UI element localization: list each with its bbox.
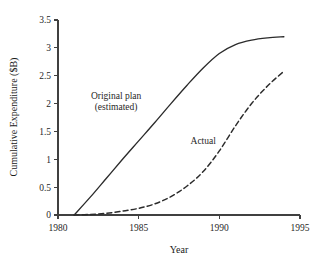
x-tick-group: 1980198519901995 <box>49 215 310 233</box>
x-axis-title: Year <box>170 244 189 255</box>
y-tick-label: 3 <box>46 43 51 53</box>
y-tick-label: 0.5 <box>39 183 51 193</box>
y-tick-label: 2 <box>46 99 51 109</box>
y-tick-label: 3.5 <box>39 15 51 25</box>
x-tick-label: 1985 <box>129 223 148 233</box>
annotation-original-plan-line2: (estimated) <box>95 102 138 113</box>
x-tick-label: 1995 <box>291 223 310 233</box>
y-tick-label: 1.5 <box>39 127 51 137</box>
y-tick-label: 0 <box>46 210 51 220</box>
series-group <box>74 37 284 215</box>
annotation-original-plan: Original plan <box>91 91 142 101</box>
x-tick-label: 1990 <box>210 223 229 233</box>
series-line-original-plan <box>74 37 284 215</box>
annotation-group: Original plan(estimated)Actual <box>91 91 216 146</box>
y-axis-title: Cumulative Expenditure ($B) <box>8 58 20 177</box>
x-tick-label: 1980 <box>49 223 68 233</box>
y-tick-label: 1 <box>46 155 51 165</box>
line-chart: 00.511.522.533.5 1980198519901995 Origin… <box>0 0 320 267</box>
chart-figure: 00.511.522.533.5 1980198519901995 Origin… <box>0 0 320 267</box>
y-tick-label: 2.5 <box>39 71 51 81</box>
y-tick-group: 00.511.522.533.5 <box>39 15 58 220</box>
annotation-actual: Actual <box>191 136 217 146</box>
